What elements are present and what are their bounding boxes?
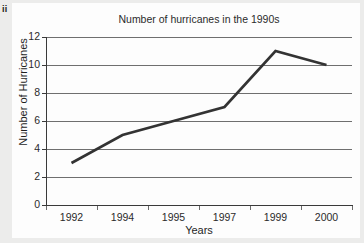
x-tick-mark (301, 206, 302, 210)
x-tick-label: 1997 (199, 211, 250, 223)
chart-title: Number of hurricanes in the 1990s (46, 13, 352, 25)
y-tick-label: 0 (6, 199, 40, 210)
x-tick-label: 1994 (97, 211, 148, 223)
x-tick-label: 2000 (301, 211, 352, 223)
data-series-line (46, 37, 352, 205)
x-tick-mark (97, 206, 98, 210)
x-tick-mark (199, 206, 200, 210)
figure-container: ii Number of hurricanes in the 1990s 12 … (0, 0, 364, 243)
x-tick-mark (250, 206, 251, 210)
x-tick-label: 1992 (46, 211, 97, 223)
y-tick-label: 2 (6, 171, 40, 182)
hurricanes-line (72, 51, 327, 163)
x-axis-title: Years (46, 224, 352, 236)
x-tick-mark (352, 206, 353, 210)
x-tick-mark (148, 206, 149, 210)
x-tick-label: 1995 (148, 211, 199, 223)
y-axis-title: Number of Hurricanes (17, 22, 29, 162)
x-tick-mark (46, 206, 47, 210)
x-tick-label: 1999 (250, 211, 301, 223)
